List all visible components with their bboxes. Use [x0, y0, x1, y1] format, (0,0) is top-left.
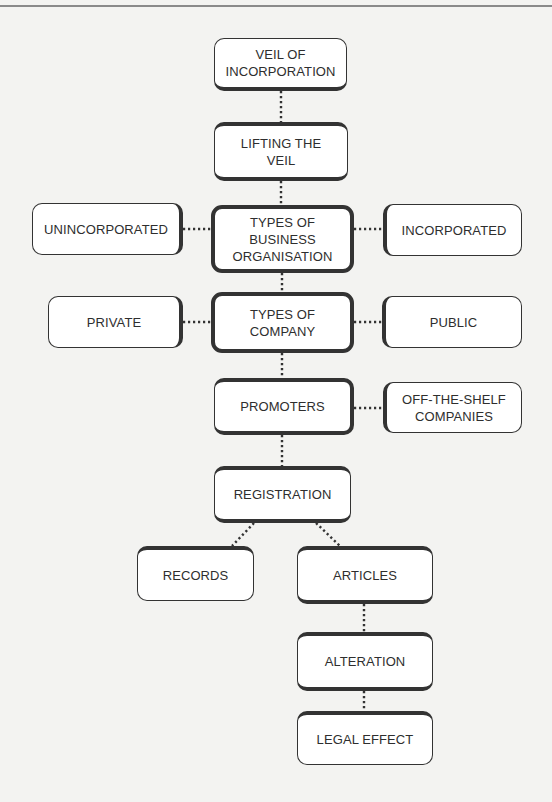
node-registration: REGISTRATION: [214, 466, 351, 523]
node-alteration: ALTERATION: [297, 632, 433, 691]
node-unincorporated: UNINCORPORATED: [32, 203, 183, 255]
node-promoters: PROMOTERS: [214, 378, 354, 435]
node-private: PRIVATE: [48, 296, 183, 348]
node-public: PUBLIC: [382, 296, 522, 348]
connector-registration-articles: [316, 523, 340, 546]
node-veil-of-incorporation: VEIL OF INCORPORATION: [214, 38, 347, 91]
node-types-of-company: TYPES OF COMPANY: [211, 292, 354, 353]
node-records: RECORDS: [137, 546, 254, 601]
node-off-the-shelf-companies: OFF-THE-SHELF COMPANIES: [383, 382, 522, 433]
node-incorporated: INCORPORATED: [383, 204, 522, 256]
node-legal-effect: LEGAL EFFECT: [297, 711, 433, 765]
node-lifting-the-veil: LIFTING THE VEIL: [214, 122, 348, 181]
node-articles: ARTICLES: [297, 546, 433, 604]
node-types-of-business-organisation: TYPES OF BUSINESS ORGANISATION: [211, 205, 354, 273]
connector-registration-records: [232, 523, 254, 546]
